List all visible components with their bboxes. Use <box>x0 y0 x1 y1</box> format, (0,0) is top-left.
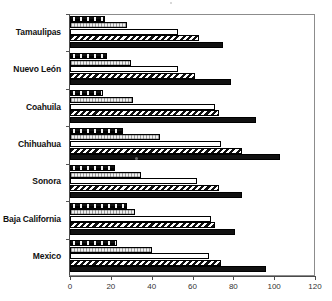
bar <box>70 192 242 198</box>
bar <box>70 154 280 160</box>
bar <box>70 110 219 116</box>
x-axis-tick-label: 40 <box>139 282 165 291</box>
bar <box>70 222 215 228</box>
x-axis-tick <box>315 276 316 280</box>
bar <box>70 240 117 246</box>
bar <box>70 22 127 28</box>
bar-group <box>70 128 315 160</box>
x-axis-tick <box>233 276 234 280</box>
y-axis-tick <box>66 164 70 165</box>
x-axis-tick <box>70 276 71 280</box>
x-axis-tick-label: 120 <box>302 282 328 291</box>
y-axis-tick <box>66 89 70 90</box>
bar-group <box>70 240 315 272</box>
bar <box>70 178 197 184</box>
bar <box>70 216 211 222</box>
x-axis-tick <box>111 276 112 280</box>
bar <box>70 42 223 48</box>
y-axis-tick <box>66 14 70 15</box>
y-axis-tick <box>66 239 70 240</box>
x-axis-tick-label: 80 <box>220 282 246 291</box>
category-label-chihuahua: Chihuahua <box>0 139 61 149</box>
bar <box>70 203 127 209</box>
category-label-sonora: Sonora <box>0 176 61 186</box>
x-axis-tick <box>274 276 275 280</box>
bar <box>70 97 133 103</box>
bar <box>70 73 195 79</box>
y-axis-tick <box>66 51 70 52</box>
y-axis-tick <box>66 201 70 202</box>
bar-group <box>70 90 315 122</box>
bar <box>70 185 219 191</box>
bar <box>70 209 135 215</box>
bar <box>70 60 131 66</box>
category-axis-labels: TamaulipasNuevo LeónCoahuilaChihuahuaSon… <box>0 14 65 276</box>
bar <box>70 260 221 266</box>
category-label-coahuila: Coahuila <box>0 102 61 112</box>
bar <box>70 247 152 253</box>
category-label-tamaulipas: Tamaulipas <box>0 27 61 37</box>
x-axis-tick-label: 20 <box>98 282 124 291</box>
bar <box>70 141 221 147</box>
bar <box>70 90 103 96</box>
x-axis-tick <box>193 276 194 280</box>
bar <box>70 117 256 123</box>
category-label-nuevo-león: Nuevo León <box>0 64 61 74</box>
x-axis-tick <box>152 276 153 280</box>
bar <box>70 29 178 35</box>
bar-group <box>70 16 315 48</box>
bar-chart: · TamaulipasNuevo LeónCoahuilaChihuahuaS… <box>0 0 332 301</box>
bar <box>70 266 266 272</box>
y-axis-tick <box>66 126 70 127</box>
bar <box>70 253 209 259</box>
bar <box>70 134 160 140</box>
bar <box>70 165 115 171</box>
scan-artifact <box>135 157 138 160</box>
bar <box>70 128 123 134</box>
category-label-baja-california: Baja California <box>0 214 61 224</box>
x-axis-tick-label: 100 <box>261 282 287 291</box>
bar <box>70 35 199 41</box>
bar <box>70 172 141 178</box>
chart-title-remnant: · <box>150 0 180 3</box>
bar <box>70 148 242 154</box>
bar <box>70 79 231 85</box>
bar-group <box>70 165 315 197</box>
bar-group <box>70 203 315 235</box>
x-axis-tick-label: 60 <box>180 282 206 291</box>
bar <box>70 104 215 110</box>
bar <box>70 53 107 59</box>
bar <box>70 229 235 235</box>
bar <box>70 16 105 22</box>
bar-group <box>70 53 315 85</box>
bar <box>70 66 178 72</box>
scan-artifact <box>170 2 172 4</box>
x-axis-tick-label: 0 <box>57 282 83 291</box>
category-label-mexico: Mexico <box>0 251 61 261</box>
